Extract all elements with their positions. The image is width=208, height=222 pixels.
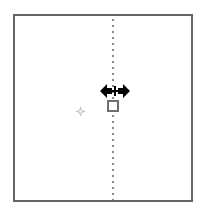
resize-horizontal-cursor-icon (100, 84, 130, 98)
canvas-frame[interactable] (13, 14, 193, 202)
sparkle-icon (76, 107, 85, 116)
canvas-stage (0, 0, 208, 222)
resize-handle[interactable] (107, 100, 119, 112)
